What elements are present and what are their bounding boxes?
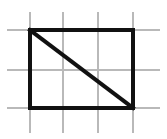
figure-canvas [0, 0, 167, 139]
geometry-figure [0, 0, 167, 139]
